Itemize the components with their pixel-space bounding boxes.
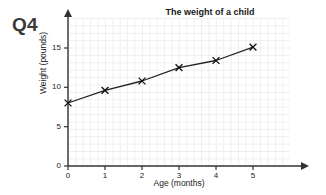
- y-tick-label: 5: [46, 123, 61, 131]
- x-axis-title: Age (months): [68, 178, 290, 188]
- y-axis-title: Weight (pounds): [38, 8, 48, 118]
- series-markers: [65, 44, 257, 107]
- y-tick-label: 0: [46, 162, 61, 170]
- data-point-marker: [250, 44, 257, 51]
- series-line: [68, 47, 253, 103]
- chart-figure: Q4 The weight of a child: [0, 0, 326, 195]
